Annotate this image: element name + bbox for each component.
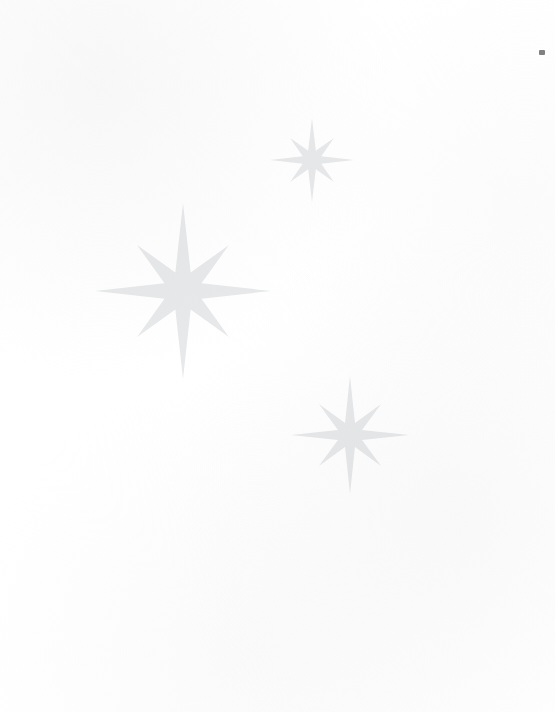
artwork-canvas (0, 0, 555, 712)
corner-registration-mark (539, 50, 545, 55)
artboard-background (0, 0, 555, 712)
star-artboard (0, 0, 555, 712)
